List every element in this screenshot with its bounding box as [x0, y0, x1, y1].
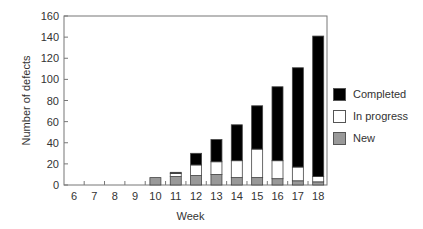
bar-segment-in-progress — [170, 173, 181, 176]
bar-segment-completed — [252, 106, 263, 149]
y-tick-label: 60 — [47, 116, 59, 128]
bar-segment-completed — [313, 36, 324, 176]
legend-label: In progress — [353, 110, 408, 122]
bar-segment-in-progress — [191, 165, 202, 176]
bar-segment-new — [252, 178, 263, 185]
bar-segment-new — [292, 181, 303, 185]
legend-item-new: New — [333, 127, 408, 149]
bar-segment-in-progress — [292, 167, 303, 181]
x-axis-title: Week — [177, 210, 205, 222]
x-tick-label: 12 — [190, 190, 202, 202]
x-tick-label: 17 — [292, 190, 304, 202]
legend-label: New — [353, 132, 375, 144]
bar-segment-in-progress — [231, 161, 242, 178]
x-tick-label: 8 — [112, 190, 118, 202]
legend-label: Completed — [353, 88, 406, 100]
bar-segment-in-progress — [272, 161, 283, 179]
bar-segment-completed — [292, 68, 303, 167]
y-tick-label: 160 — [41, 10, 59, 22]
bar-segment-completed — [170, 172, 181, 173]
x-tick-label: 10 — [149, 190, 161, 202]
bar-segment-in-progress — [252, 149, 263, 178]
bar-segment-new — [170, 177, 181, 185]
legend-item-completed: Completed — [333, 83, 408, 105]
bar-segment-completed — [191, 153, 202, 165]
y-tick-label: 80 — [47, 95, 59, 107]
y-tick-label: 120 — [41, 52, 59, 64]
bar-segment-completed — [211, 140, 222, 162]
x-tick-label: 11 — [170, 190, 181, 202]
legend-swatch-in-progress — [333, 110, 346, 123]
legend-swatch-new — [333, 132, 346, 145]
bar-segment-in-progress — [211, 162, 222, 175]
bar-segment-completed — [272, 87, 283, 161]
x-tick-label: 6 — [71, 190, 77, 202]
x-tick-label: 13 — [210, 190, 222, 202]
bar-segment-new — [272, 179, 283, 185]
y-axis-title: Number of defects — [20, 55, 32, 145]
x-tick-label: 15 — [251, 190, 263, 202]
x-tick-label: 7 — [91, 190, 97, 202]
y-tick-label: 0 — [53, 179, 59, 191]
y-tick-label: 40 — [47, 137, 59, 149]
bar-segment-completed — [231, 125, 242, 161]
x-tick-label: 18 — [312, 190, 324, 202]
bar-segment-new — [150, 178, 161, 185]
bar-segment-in-progress — [313, 177, 324, 182]
y-tick-label: 20 — [47, 158, 59, 170]
bar-segment-new — [211, 174, 222, 185]
x-tick-label: 16 — [271, 190, 283, 202]
y-tick-label: 100 — [41, 73, 59, 85]
x-tick-label: 9 — [132, 190, 138, 202]
x-tick-label: 14 — [231, 190, 243, 202]
legend-item-in-progress: In progress — [333, 105, 408, 127]
y-tick-label: 140 — [41, 31, 59, 43]
bars — [150, 36, 324, 185]
bar-segment-new — [231, 178, 242, 185]
legend-swatch-completed — [333, 88, 346, 101]
legend: Completed In progress New — [333, 83, 408, 149]
bar-segment-new — [191, 175, 202, 185]
bar-segment-new — [313, 182, 324, 185]
